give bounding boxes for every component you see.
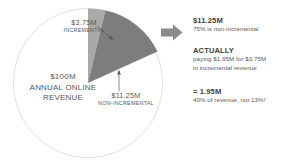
arrow-right-icon: [161, 25, 183, 41]
callout-3-heading: = 1.95M: [193, 87, 297, 96]
infographic-canvas: $100M ANNUAL ONLINE REVENUE $3.75M INCRE…: [0, 0, 300, 167]
callout-actually: ACTUALLY paying $1.95M for $3.75M in inc…: [193, 46, 297, 72]
pie-label-incremental-value: $3.75M: [55, 19, 113, 27]
pie-label-non-incremental: $11.25M NON-INCREMENTAL: [90, 92, 162, 107]
pie-center-value: $100M: [11, 72, 115, 81]
callout-2-heading: ACTUALLY: [193, 46, 297, 55]
callout-2-line1: paying $1.95M for $3.75M: [193, 55, 297, 63]
pie-label-non-incremental-name: NON-INCREMENTAL: [90, 100, 162, 106]
callout-1-heading: $11.25M: [193, 16, 297, 25]
callout-non-incremental: $11.25M 75% is non-incremental: [193, 16, 297, 34]
pie-label-incremental: $3.75M INCREMENTAL: [55, 19, 113, 34]
callout-2-line2: in incremental revenue: [193, 64, 297, 72]
callout-effective-rate: = 1.95M 40% of revenue, not 13%!: [193, 87, 297, 105]
callout-3-line1: 40% of revenue, not 13%!: [193, 96, 297, 104]
pie-label-non-incremental-value: $11.25M: [90, 92, 162, 100]
pie-label-incremental-name: INCREMENTAL: [55, 27, 113, 33]
callout-1-line1: 75% is non-incremental: [193, 25, 297, 33]
